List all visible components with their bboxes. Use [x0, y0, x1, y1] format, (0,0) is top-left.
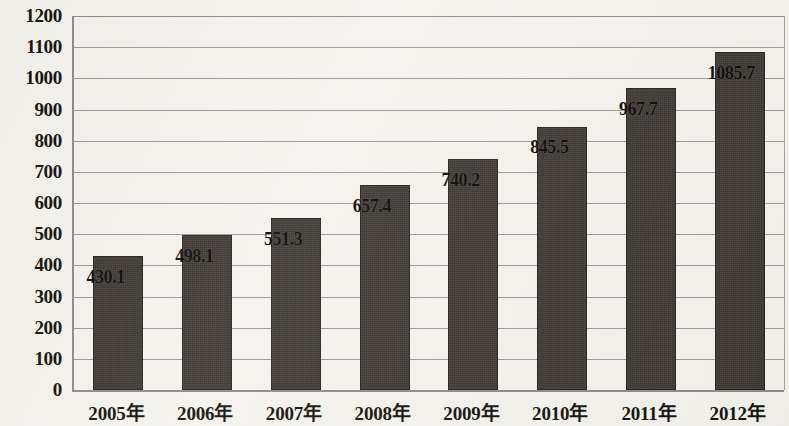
x-axis-tick-label: 2005年 — [72, 398, 161, 425]
bar — [537, 127, 587, 391]
gridline — [74, 203, 784, 204]
x-axis-tick-label: 2006年 — [161, 398, 250, 425]
bar-chart: 0100200300400500600700800900100011001200… — [0, 0, 789, 426]
y-axis-tick-label: 100 — [0, 348, 62, 370]
bar-value-label: 967.7 — [619, 99, 658, 120]
bar-value-label: 845.5 — [530, 137, 569, 158]
gridline — [74, 297, 784, 298]
x-axis-tick-label: 2011年 — [605, 398, 694, 425]
gridline — [74, 78, 784, 79]
gridline — [74, 16, 784, 17]
gridline — [74, 141, 784, 142]
y-axis-tick-label: 1200 — [0, 5, 62, 27]
bar-value-label: 498.1 — [175, 246, 214, 267]
y-axis-tick-label: 900 — [0, 99, 62, 121]
bar — [715, 52, 765, 390]
y-axis-tick-label: 600 — [0, 192, 62, 214]
bar — [626, 88, 676, 390]
y-axis-tick-label: 400 — [0, 254, 62, 276]
y-axis-tick-label: 200 — [0, 317, 62, 339]
x-axis-tick-label: 2010年 — [516, 398, 605, 425]
bar-value-label: 657.4 — [353, 196, 392, 217]
bar — [448, 159, 498, 390]
gridline — [74, 234, 784, 235]
gridline — [74, 359, 784, 360]
gridline — [74, 47, 784, 48]
y-axis-tick-label: 700 — [0, 161, 62, 183]
y-axis-tick-label: 1100 — [0, 36, 62, 58]
bar-value-label: 430.1 — [86, 267, 125, 288]
bar-value-label: 740.2 — [441, 170, 480, 191]
gridline — [74, 172, 784, 173]
x-axis-tick-label: 2009年 — [427, 398, 516, 425]
y-axis-tick-label: 300 — [0, 286, 62, 308]
x-axis-tick-label: 2008年 — [338, 398, 427, 425]
y-axis-tick-label: 0 — [0, 379, 62, 401]
y-axis-tick-label: 1000 — [0, 67, 62, 89]
y-axis-tick-label: 800 — [0, 130, 62, 152]
x-axis-tick-label: 2012年 — [693, 398, 782, 425]
gridline — [74, 110, 784, 111]
bar-value-label: 551.3 — [264, 229, 303, 250]
plot-area — [72, 16, 784, 392]
x-axis-tick-label: 2007年 — [250, 398, 339, 425]
y-axis-tick-label: 500 — [0, 223, 62, 245]
gridline — [74, 328, 784, 329]
plot-right-border — [784, 16, 785, 390]
bar-value-label: 1085.7 — [708, 63, 755, 84]
